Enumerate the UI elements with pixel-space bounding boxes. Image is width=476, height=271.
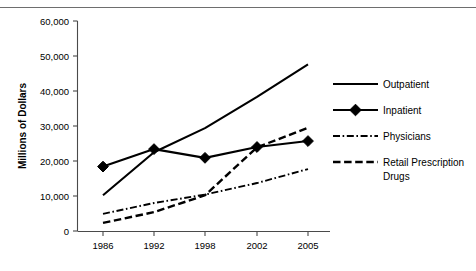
legend-diamond-marker-icon (350, 104, 362, 116)
y-tick-label-50000: 50,000 (40, 51, 69, 62)
chart-legend: Outpatient Inpatient Physicians Retail P… (333, 79, 464, 182)
series-line-physicians (103, 169, 308, 214)
x-tick-label-2005: 2005 (297, 240, 318, 251)
y-tick-label-30000: 30,000 (40, 121, 69, 132)
line-chart: 60,000 50,000 40,000 30,000 20,000 10,00… (0, 0, 476, 271)
legend-item-outpatient[interactable]: Outpatient (333, 79, 429, 90)
y-tick-label-0: 0 (64, 226, 69, 237)
chart-figure: 60,000 50,000 40,000 30,000 20,000 10,00… (0, 0, 476, 271)
legend-label-retail-prescription-drugs: Retail Prescription (383, 157, 464, 168)
legend-item-retail-prescription-drugs[interactable]: Retail Prescription Drugs (333, 157, 464, 182)
x-axis: 1986 1992 1998 2002 2005 (78, 232, 331, 252)
x-tick-label-1986: 1986 (92, 240, 113, 251)
data-point-marker (303, 136, 314, 147)
y-tick-label-60000: 60,000 (40, 16, 69, 27)
y-tick-label-10000: 10,000 (40, 191, 69, 202)
series-line-outpatient (103, 64, 308, 195)
legend-item-inpatient[interactable]: Inpatient (333, 104, 422, 116)
series-line-retail-prescription-drugs (103, 128, 308, 223)
legend-label-retail-prescription-drugs-line2: Drugs (383, 171, 410, 182)
y-axis: 60,000 50,000 40,000 30,000 20,000 10,00… (17, 16, 78, 237)
legend-label-inpatient: Inpatient (383, 105, 422, 116)
x-tick-label-1992: 1992 (143, 240, 164, 251)
legend-label-physicians: Physicians (383, 131, 431, 142)
x-tick-label-2002: 2002 (246, 240, 267, 251)
data-point-marker (98, 161, 109, 172)
data-point-marker (149, 144, 160, 155)
data-point-marker (200, 152, 211, 163)
series-markers-inpatient (98, 136, 314, 172)
legend-item-physicians[interactable]: Physicians (333, 131, 431, 142)
y-tick-label-20000: 20,000 (40, 156, 69, 167)
y-axis-title: Millions of Dollars (17, 83, 28, 170)
legend-label-outpatient: Outpatient (383, 79, 429, 90)
y-tick-label-40000: 40,000 (40, 86, 69, 97)
series-group (98, 64, 314, 223)
x-tick-label-1998: 1998 (194, 240, 215, 251)
